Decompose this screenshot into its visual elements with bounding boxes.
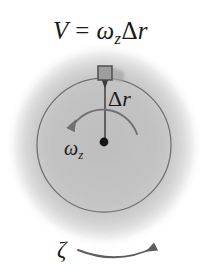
velocity-symbol: V [53,17,69,44]
equals-sign: = [69,17,97,44]
center-dot [100,138,109,147]
omega-z-subscript: z [78,147,83,162]
omega-symbol: ω [96,17,114,44]
radius-symbol: r [138,17,148,44]
omega-z-omega: ω [64,137,78,159]
mass-block [98,66,112,80]
figure-container: V = ωzΔr Δr ωz ζ [0,0,208,277]
delta-r-delta: Δ [108,86,122,111]
delta-r-radius: r [122,86,131,111]
velocity-equation-label: V = ωzΔr [53,18,148,48]
delta-symbol: Δ [121,17,137,44]
delta-r-label: Δr [108,88,131,110]
zeta-label: ζ [57,238,66,261]
omega-z-label: ωz [64,138,83,161]
zeta-symbol: ζ [57,237,66,262]
zeta-arc-arrow [78,247,155,257]
